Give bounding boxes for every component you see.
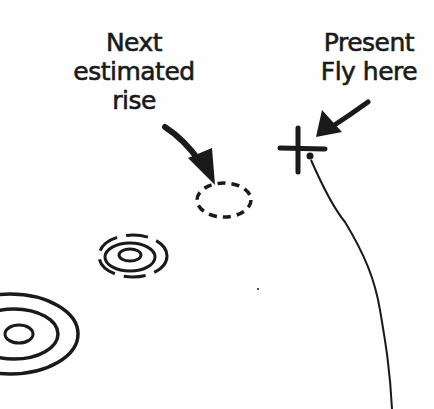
label-line: rise: [58, 86, 210, 115]
arrow-to-present-fly-icon: [316, 102, 368, 137]
next-estimated-rise-label: Next estimated rise: [58, 28, 210, 115]
label-line: Next: [58, 28, 210, 57]
label-line: estimated: [58, 57, 210, 86]
large-rise-rings-icon: [0, 294, 78, 374]
label-line: Fly here: [296, 57, 434, 86]
fly-fishing-diagram: Next estimated rise Present Fly here: [0, 0, 434, 409]
drift-line-icon: [311, 160, 392, 409]
present-fly-here-label: Present Fly here: [296, 28, 434, 86]
small-rise-rings-icon: [99, 235, 167, 277]
label-line: Present: [296, 28, 434, 57]
arrow-to-next-rise-icon: [165, 127, 215, 185]
next-rise-dashed-oval-icon: [197, 183, 251, 217]
